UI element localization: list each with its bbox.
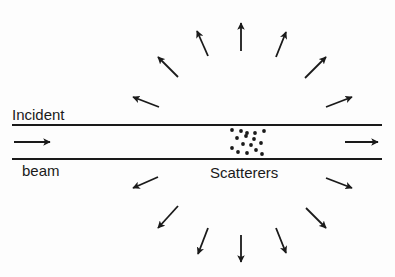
scatterers-label: Scatterers xyxy=(210,164,278,181)
scattered-arrow-icon xyxy=(326,178,352,188)
scattered-arrow-icon xyxy=(305,57,326,78)
scatterer-dot xyxy=(230,128,234,132)
scattered-arrow-icon xyxy=(197,31,208,56)
scattering-diagram: Incident beam Scatterers xyxy=(0,0,395,277)
scattered-arrow-icon xyxy=(158,206,178,228)
scatterer-dot xyxy=(249,143,253,147)
scatterer-dot xyxy=(245,151,249,155)
scatterer-dot xyxy=(262,129,266,133)
diagram-svg: Incident beam Scatterers xyxy=(0,0,395,277)
scattered-arrow-icon xyxy=(326,97,352,107)
scatterer-dot xyxy=(259,141,263,145)
scattered-arrow-icon xyxy=(133,97,159,107)
beam-label: beam xyxy=(22,162,60,179)
scatterer-dot xyxy=(244,134,248,138)
incident-label: Incident xyxy=(12,106,65,123)
scatterers-cluster xyxy=(230,128,266,156)
scatterer-dot xyxy=(252,137,256,141)
scatterer-dot xyxy=(236,150,240,154)
scatterer-dot xyxy=(260,152,264,156)
scatterer-dot xyxy=(239,129,243,133)
scattered-arrow-icon xyxy=(276,32,286,57)
scattered-arrow-icon xyxy=(306,208,326,228)
scatterer-dot xyxy=(230,146,234,150)
scattered-arrow-icon xyxy=(133,177,158,188)
scatterer-dot xyxy=(241,142,245,146)
scatterer-dot xyxy=(235,136,239,140)
scatterer-dot xyxy=(253,131,257,135)
scatterer-dot xyxy=(254,148,258,152)
scattered-arrow-icon xyxy=(158,57,178,77)
scattered-arrow-icon xyxy=(198,228,208,254)
scattered-arrow-icon xyxy=(276,228,286,253)
